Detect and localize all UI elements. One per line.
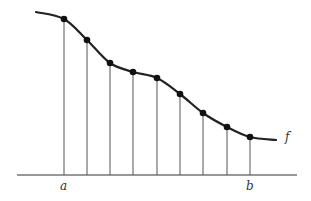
partition-lines xyxy=(64,19,250,175)
sample-point xyxy=(84,37,91,44)
sample-point xyxy=(107,60,114,67)
sample-point xyxy=(177,91,184,98)
label-a: a xyxy=(60,179,67,193)
label-b: b xyxy=(246,179,254,193)
sample-point xyxy=(247,134,254,141)
sample-point xyxy=(130,69,137,76)
sample-point xyxy=(200,110,207,117)
sample-point xyxy=(61,16,68,23)
sample-point xyxy=(224,124,231,131)
diagram-canvas xyxy=(0,0,311,201)
label-f: f xyxy=(285,130,289,144)
sample-point xyxy=(154,75,161,82)
